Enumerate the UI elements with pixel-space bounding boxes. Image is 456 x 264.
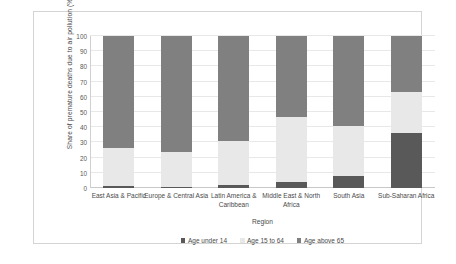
gridline [90,111,435,112]
bar-segment[interactable] [276,117,307,182]
x-tick-label: Latin America & Caribbean [201,191,267,210]
bar-group[interactable] [391,36,422,188]
x-tick-label: East Asia & Pacific [86,191,152,200]
bar-group[interactable] [276,36,307,188]
legend-item[interactable]: Age above 65 [297,237,344,244]
bar-segment[interactable] [218,141,249,185]
y-tick-label: 20 [63,154,87,161]
bar-segment[interactable] [103,186,134,188]
x-axis-ticks: East Asia & PacificEurope & Central Asia… [90,191,435,217]
plot-background [90,36,435,188]
bar-segment[interactable] [391,36,422,92]
bar-segment[interactable] [161,36,192,152]
bar-segment[interactable] [161,187,192,188]
x-tick-label: Europe & Central Asia [143,191,209,200]
x-tick-label: Sub-Saharan Africa [373,191,439,200]
y-axis-line [90,36,91,188]
bar-group[interactable] [218,36,249,188]
gridline [90,50,435,51]
gridline [90,187,435,188]
x-tick-label: Middle East & North Africa [258,191,324,210]
bar-segment[interactable] [276,36,307,117]
bar-segment[interactable] [391,133,422,188]
bar-group[interactable] [333,36,364,188]
plot-area [90,36,435,188]
y-axis-title: Share of premature deaths due to air pol… [65,0,75,153]
bar-segment[interactable] [103,148,134,186]
legend-swatch-icon [297,238,302,243]
y-tick-label: 0 [63,185,87,192]
legend-swatch-icon [240,238,245,243]
bar-group[interactable] [103,36,134,188]
bar-group[interactable] [161,36,192,188]
gridline [90,81,435,82]
bar-segment[interactable] [161,152,192,188]
gridline [90,157,435,158]
gridline [90,172,435,173]
legend-label: Age 15 to 64 [247,237,284,244]
gridline [90,126,435,127]
legend-label: Age above 65 [304,237,344,244]
chart-legend: Age under 14Age 15 to 64Age above 65 [90,237,435,244]
gridline [90,65,435,66]
bar-segment[interactable] [218,36,249,141]
bar-segment[interactable] [333,176,364,188]
bar-segment[interactable] [333,126,364,176]
legend-item[interactable]: Age under 14 [181,237,227,244]
gridline [90,96,435,97]
x-tick-label: South Asia [316,191,382,200]
chart-figure: Share of premature deaths due to air pol… [0,0,456,264]
legend-swatch-icon [181,238,186,243]
y-tick-label: 10 [63,169,87,176]
x-axis-title: Region [90,218,435,225]
bar-segment[interactable] [103,36,134,148]
legend-item[interactable]: Age 15 to 64 [240,237,284,244]
bar-segment[interactable] [218,185,249,188]
bar-segment[interactable] [276,182,307,188]
bar-segment[interactable] [333,36,364,126]
legend-label: Age under 14 [188,237,227,244]
chart-frame: Share of premature deaths due to air pol… [33,11,422,244]
gridline [90,35,435,36]
gridline [90,141,435,142]
bar-segment[interactable] [391,92,422,133]
